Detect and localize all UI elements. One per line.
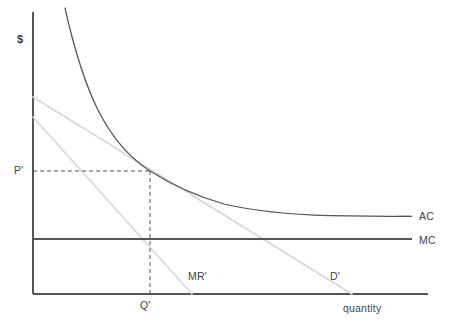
average-cost-curve-line: [65, 8, 411, 216]
marginal-revenue-curve-line: [33, 117, 192, 294]
marginal-revenue-curve-label: MR': [188, 271, 207, 282]
x-axis-label: quantity: [343, 303, 381, 314]
average-cost-curve-label: AC: [419, 211, 434, 222]
y-axis-label: $: [17, 34, 23, 45]
demand-curve-line: [33, 97, 352, 294]
demand-curve-label: D': [330, 271, 340, 282]
chart-canvas: [0, 0, 453, 325]
quantity-tick-label: Q': [140, 300, 151, 311]
price-tick-label: P': [14, 165, 23, 176]
economics-diagram: $ P' Q' MR' D' AC MC quantity: [0, 0, 453, 325]
marginal-cost-curve-label: MC: [419, 235, 436, 246]
